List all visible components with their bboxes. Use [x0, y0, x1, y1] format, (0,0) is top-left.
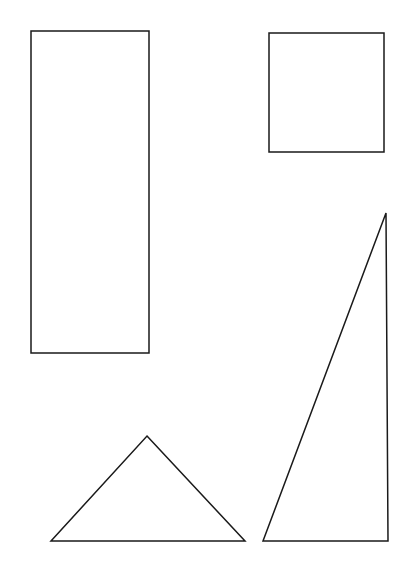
canvas-background	[0, 0, 411, 572]
shapes-canvas	[0, 0, 411, 572]
shapes-canvas-root	[0, 0, 411, 572]
